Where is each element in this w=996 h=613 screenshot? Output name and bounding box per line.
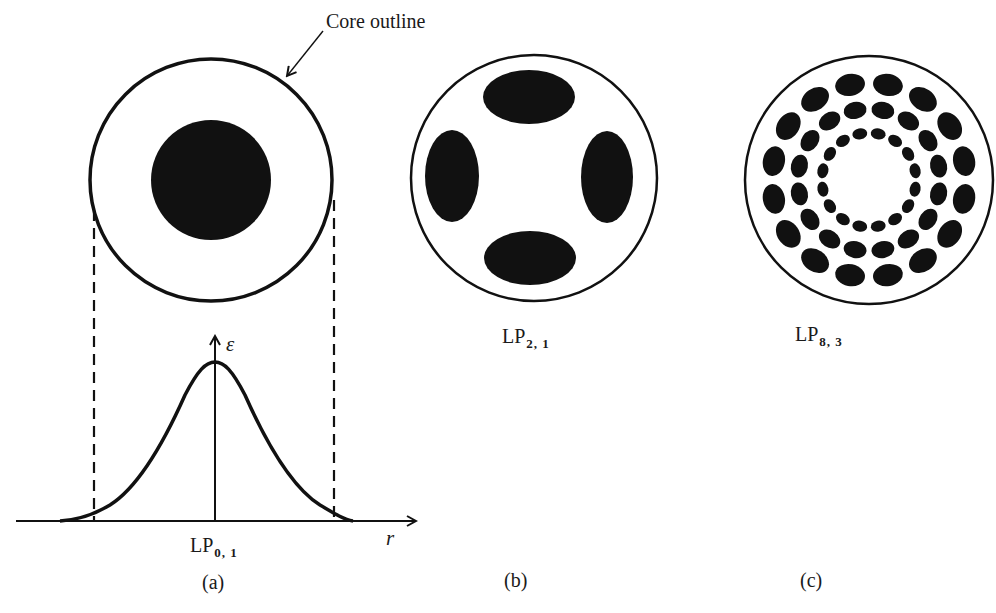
mode-lobe [821, 197, 838, 216]
mode-lobe [870, 127, 887, 141]
mode-lobe [870, 219, 887, 233]
caption-c: (c) [800, 570, 822, 590]
mode-lobe [771, 108, 806, 145]
mode-lobe [815, 226, 844, 253]
mode-lobe [928, 153, 949, 179]
mode-lobe [870, 239, 896, 260]
mode-lobe [815, 108, 844, 135]
mode-lobe-top [483, 70, 575, 124]
mode-label-c: LP8, 3 [795, 324, 843, 348]
mode-lobe-central [151, 120, 271, 240]
mode-lobe [908, 181, 922, 198]
field-amplitude-curve [60, 362, 353, 521]
mode-lobe [789, 153, 810, 179]
mode-lobe [821, 145, 838, 164]
mode-lobe [915, 205, 942, 234]
panel-c-core [745, 56, 993, 304]
mode-lobe [816, 162, 830, 179]
mode-lobe [833, 71, 867, 98]
diagram-canvas [0, 0, 996, 613]
caption-a: (a) [202, 572, 224, 592]
mode-lobe [842, 239, 868, 260]
mode-lobe [932, 108, 967, 145]
mode-lobe [851, 127, 868, 141]
mode-lobe [797, 243, 834, 278]
mode-lobe-right [581, 131, 633, 223]
mode-lobe [871, 261, 905, 288]
epsilon-axis-label: ε [226, 334, 234, 355]
mode-lobe [894, 226, 923, 253]
mode-lobe [899, 145, 916, 164]
mode-lobe [833, 261, 867, 288]
mode-lobe [894, 108, 923, 135]
mode-lobe [834, 210, 853, 227]
mode-lobe-rings [760, 71, 978, 289]
mode-lobe [915, 126, 942, 155]
mode-lobe [760, 144, 787, 178]
mode-lobe [760, 182, 787, 216]
caption-b: (b) [504, 570, 527, 590]
mode-lobe [871, 71, 905, 98]
mode-lobe-left [425, 130, 479, 222]
field-profile-plot [16, 336, 416, 521]
mode-lobe-bottom [484, 231, 576, 285]
mode-lobe [886, 210, 905, 227]
mode-lobe [797, 82, 834, 117]
core-outline-label: Core outline [326, 11, 425, 31]
mode-lobe [851, 219, 868, 233]
mode-lobe [886, 132, 905, 149]
mode-label-b: LP2, 1 [502, 326, 550, 350]
mode-lobe [797, 126, 824, 155]
r-axis-label: r [386, 528, 394, 549]
core-outline-circle-c [745, 56, 993, 304]
mode-lobe [908, 162, 922, 179]
mode-lobe [950, 182, 977, 216]
mode-lobe [904, 243, 941, 278]
mode-lobe [834, 132, 853, 149]
mode-label-a: LP0, 1 [190, 535, 238, 559]
mode-lobe [771, 215, 806, 252]
mode-lobe [789, 181, 810, 207]
mode-lobe [950, 144, 977, 178]
mode-lobe [904, 82, 941, 117]
panel-a-core [90, 59, 332, 301]
core-outline-arrow [287, 31, 323, 76]
mode-lobe [870, 100, 896, 121]
mode-lobe [842, 100, 868, 121]
mode-lobe [899, 197, 916, 216]
panel-b-core [411, 55, 657, 301]
mode-lobe [816, 181, 830, 198]
mode-lobe [928, 181, 949, 207]
mode-lobe [932, 215, 967, 252]
lp-mode-diagram: Core outline ε r LP0, 1 LP2, 1 LP8, 3 (a… [0, 0, 996, 613]
mode-lobe [797, 205, 824, 234]
